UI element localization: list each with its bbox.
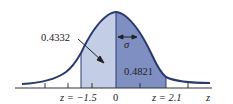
mean-label: 0	[113, 92, 118, 103]
right-area-label: 0.4821	[124, 66, 153, 77]
normal-distribution-figure: σ 0.4332 0.4821 z = −1.5 0 z = 2.1 z	[0, 0, 233, 104]
left-bound-label: z = −1.5	[59, 92, 97, 103]
right-bound-label: z = 2.1	[151, 92, 182, 103]
sigma-label: σ	[124, 39, 130, 50]
left-area-label: 0.4332	[41, 32, 70, 43]
axis-label: z	[205, 92, 210, 103]
